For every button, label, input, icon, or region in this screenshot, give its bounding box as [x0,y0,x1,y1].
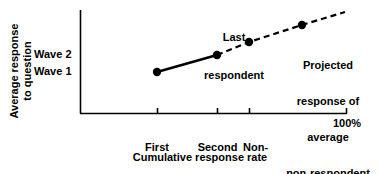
x-tick-label-first-wave: First wave [133,117,181,174]
annotation-projected-response: Projected response of average non-respon… [278,35,378,174]
annotation-projected-response-line-1: Projected [278,59,378,71]
annotation-projected-response-line-4: non-respondent [278,167,378,174]
annotation-projected-response-line-3: average [278,131,378,143]
annotation-last-respondent-line-1: Last [196,31,272,44]
y-axis-title-line-1: Average response [8,11,21,131]
y-tick-label-wave-2: Wave 2 [34,49,72,61]
y-axis-title: Average response to question [8,11,34,131]
annotation-projected-response-line-2: response of [278,95,378,107]
data-point-first-wave [153,68,161,76]
x-axis-title: Cumulative response rate [110,152,290,164]
chart-figure: Average response to question Wave 2 Wave… [0,0,381,174]
data-point-projected-non-respondent [298,21,306,29]
y-tick-label-wave-1: Wave 1 [34,66,72,78]
x-tick-label-second-wave: Second wave [190,117,245,174]
annotation-last-respondent: Last respondent [196,6,272,106]
y-axis-title-line-2: to question [21,11,34,131]
annotation-last-respondent-line-2: respondent [196,69,272,82]
